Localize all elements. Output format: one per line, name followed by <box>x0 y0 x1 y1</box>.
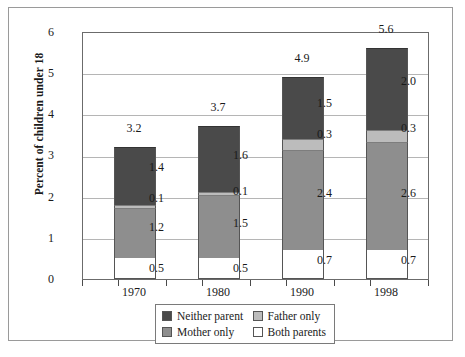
value-label-both-1990: 0.7 <box>317 253 332 268</box>
value-label-father-1980: 0.1 <box>233 184 248 199</box>
value-label-mother-1970: 1.2 <box>149 220 164 235</box>
value-label-both-1980: 0.5 <box>233 261 248 276</box>
plot-area <box>82 32 429 280</box>
legend-item-neither-parent[interactable]: Neither parent <box>162 310 253 322</box>
y-tick-label-4: 4 <box>30 107 54 122</box>
bar-total-1970: 3.2 <box>104 121 164 136</box>
value-label-mother-1990: 2.4 <box>317 186 332 201</box>
legend-row-1: Neither parent Father only <box>162 308 328 324</box>
legend-swatch-both-parents <box>253 327 263 337</box>
y-tick-label-0: 0 <box>30 272 54 287</box>
bar-segment-neither-1998 <box>366 48 408 131</box>
value-label-neither-1970: 1.4 <box>149 160 164 175</box>
legend-item-father-only[interactable]: Father only <box>253 310 328 322</box>
value-label-mother-1980: 1.5 <box>233 216 248 231</box>
x-tick-label-1970: 1970 <box>104 285 164 300</box>
value-label-father-1970: 0.1 <box>149 191 164 206</box>
x-tick-mark-4 <box>250 280 251 286</box>
x-tick-label-1990: 1990 <box>272 285 332 300</box>
x-tick-label-1980: 1980 <box>188 285 248 300</box>
legend-label-father-only: Father only <box>268 310 321 322</box>
y-tick-label-6: 6 <box>30 25 54 40</box>
x-tick-mark-8 <box>428 280 429 286</box>
legend-label-neither-parent: Neither parent <box>177 310 243 322</box>
figure: Percent of children under 18 6 5 4 3 2 1… <box>0 0 465 357</box>
figure-frame: Percent of children under 18 6 5 4 3 2 1… <box>8 7 453 341</box>
bar-total-1980: 3.7 <box>188 100 248 115</box>
bar-total-1990: 4.9 <box>272 51 332 66</box>
legend-item-mother-only[interactable]: Mother only <box>162 326 253 338</box>
value-label-both-1998: 0.7 <box>401 253 416 268</box>
bar-total-1998: 5.6 <box>356 22 416 37</box>
value-label-neither-1990: 1.5 <box>317 96 332 111</box>
y-tick-label-5: 5 <box>30 66 54 81</box>
value-label-both-1970: 0.5 <box>149 261 164 276</box>
y-tick-label-2: 2 <box>30 190 54 205</box>
legend-swatch-mother-only <box>162 327 172 337</box>
legend-label-both-parents: Both parents <box>268 326 326 338</box>
value-label-father-1990: 0.3 <box>317 127 332 142</box>
value-label-neither-1998: 2.0 <box>401 74 416 89</box>
y-tick-label-1: 1 <box>30 231 54 246</box>
legend-swatch-neither-parent <box>162 311 172 321</box>
value-label-father-1998: 0.3 <box>401 121 416 136</box>
y-tick-label-3: 3 <box>30 148 54 163</box>
x-tick-mark-2 <box>166 280 167 286</box>
y-axis-title: Percent of children under 18 <box>33 34 45 214</box>
legend-item-both-parents[interactable]: Both parents <box>253 326 328 338</box>
value-label-neither-1980: 1.6 <box>233 148 248 163</box>
value-label-mother-1998: 2.6 <box>401 186 416 201</box>
x-tick-mark-0 <box>82 280 83 286</box>
x-tick-mark-6 <box>334 280 335 286</box>
legend-swatch-father-only <box>253 311 263 321</box>
x-tick-label-1998: 1998 <box>356 285 416 300</box>
legend: Neither parent Father only Mother only B… <box>155 304 335 344</box>
legend-row-2: Mother only Both parents <box>162 324 328 340</box>
legend-label-mother-only: Mother only <box>177 326 234 338</box>
